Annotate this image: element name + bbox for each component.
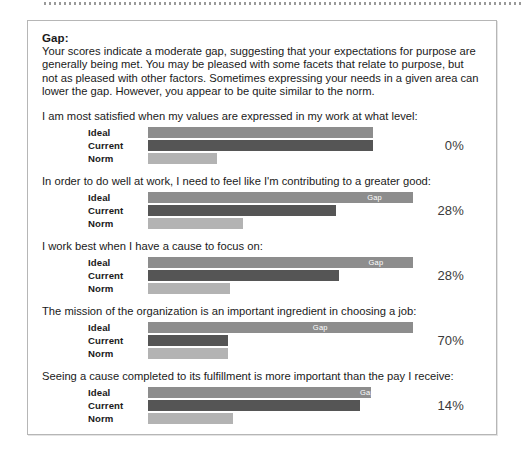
bars-area: IdealGapCurrentNorm [42, 387, 432, 424]
bar-line-ideal: IdealGap [42, 192, 432, 203]
question-text: I am most satisfied when my values are e… [42, 110, 482, 123]
bar-track-ideal: Gap [148, 192, 432, 203]
chart-row: IdealCurrentNorm0% [42, 127, 482, 164]
series-label-norm: Norm [42, 348, 148, 359]
gap-tag: Gap [336, 192, 413, 203]
question-text: Seeing a cause completed to its fulfillm… [42, 370, 482, 383]
gap-report-card: Gap: Your scores indicate a moderate gap… [27, 20, 497, 435]
bar-line-ideal: Ideal [42, 127, 432, 138]
chart-row: IdealGapCurrentNorm28% [42, 257, 482, 294]
chart-row: IdealGapCurrentNorm28% [42, 192, 482, 229]
question-text: In order to do well at work, I need to f… [42, 175, 482, 188]
bar-line-ideal: IdealGap [42, 387, 432, 398]
question-block: I work best when I have a cause to focus… [42, 240, 482, 294]
bar-line-norm: Norm [42, 218, 432, 229]
bar-track-current [148, 400, 432, 411]
question-block: In order to do well at work, I need to f… [42, 175, 482, 229]
bar-norm [148, 348, 228, 359]
bar-track-ideal: Gap [148, 322, 432, 333]
bar-track-current [148, 335, 432, 346]
gap-tag: Gap [228, 322, 414, 333]
bar-track-ideal: Gap [148, 257, 432, 268]
question-block: The mission of the organization is an im… [42, 305, 482, 359]
bar-norm [148, 218, 243, 229]
gap-tag: Gap [360, 387, 371, 398]
bars-area: IdealGapCurrentNorm [42, 192, 432, 229]
bar-current [148, 400, 360, 411]
bar-line-current: Current [42, 140, 432, 151]
bar-current [148, 140, 373, 151]
bar-line-current: Current [42, 205, 432, 216]
gap-section-paragraph: Your scores indicate a moderate gap, sug… [42, 45, 482, 99]
bar-track-norm [148, 283, 432, 294]
bar-track-norm [148, 413, 432, 424]
chart-row: IdealGapCurrentNorm14% [42, 387, 482, 424]
gap-percent-label: 0% [432, 138, 482, 153]
bar-track-norm [148, 153, 432, 164]
question-text: I work best when I have a cause to focus… [42, 240, 482, 253]
bar-ideal [148, 387, 371, 398]
bars-area: IdealGapCurrentNorm [42, 322, 432, 359]
bar-line-norm: Norm [42, 413, 432, 424]
gap-percent-label: 28% [432, 268, 482, 283]
bar-current [148, 205, 336, 216]
series-label-current: Current [42, 270, 148, 281]
question-block: Seeing a cause completed to its fulfillm… [42, 370, 482, 424]
series-label-norm: Norm [42, 413, 148, 424]
bar-norm [148, 283, 230, 294]
gap-percent-label: 28% [432, 203, 482, 218]
bar-track-norm [148, 218, 432, 229]
bar-track-ideal [148, 127, 432, 138]
bar-track-ideal: Gap [148, 387, 432, 398]
bar-current [148, 270, 339, 281]
series-label-current: Current [42, 140, 148, 151]
series-label-current: Current [42, 205, 148, 216]
bar-norm [148, 413, 233, 424]
bar-track-current [148, 140, 432, 151]
bar-ideal [148, 127, 373, 138]
bar-line-norm: Norm [42, 348, 432, 359]
gap-percent-label: 14% [432, 398, 482, 413]
question-block: I am most satisfied when my values are e… [42, 110, 482, 164]
series-label-norm: Norm [42, 218, 148, 229]
bar-line-current: Current [42, 400, 432, 411]
chart-row: IdealGapCurrentNorm70% [42, 322, 482, 359]
series-label-norm: Norm [42, 153, 148, 164]
question-group-list: I am most satisfied when my values are e… [42, 110, 482, 424]
series-label-ideal: Ideal [42, 257, 148, 268]
bar-line-ideal: IdealGap [42, 257, 432, 268]
series-label-ideal: Ideal [42, 322, 148, 333]
series-label-norm: Norm [42, 283, 148, 294]
bar-track-norm [148, 348, 432, 359]
bar-current [148, 335, 228, 346]
bar-track-current [148, 205, 432, 216]
series-label-ideal: Ideal [42, 127, 148, 138]
series-label-ideal: Ideal [42, 192, 148, 203]
bar-norm [148, 153, 217, 164]
bar-line-norm: Norm [42, 283, 432, 294]
bars-area: IdealCurrentNorm [42, 127, 432, 164]
bar-line-norm: Norm [42, 153, 432, 164]
bars-area: IdealGapCurrentNorm [42, 257, 432, 294]
bar-track-current [148, 270, 432, 281]
gap-tag: Gap [339, 257, 413, 268]
scan-artifact-dotted-line [44, 2, 524, 5]
bar-line-current: Current [42, 335, 432, 346]
question-text: The mission of the organization is an im… [42, 305, 482, 318]
bar-line-current: Current [42, 270, 432, 281]
series-label-current: Current [42, 400, 148, 411]
series-label-ideal: Ideal [42, 387, 148, 398]
bar-line-ideal: IdealGap [42, 322, 432, 333]
series-label-current: Current [42, 335, 148, 346]
gap-percent-label: 70% [432, 333, 482, 348]
card-content: Gap: Your scores indicate a moderate gap… [28, 21, 496, 424]
gap-section-heading: Gap: [42, 32, 482, 44]
